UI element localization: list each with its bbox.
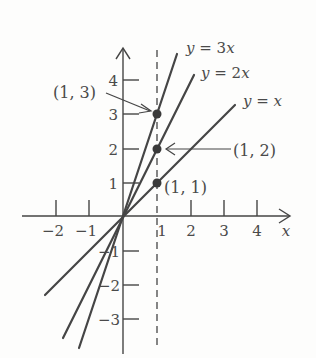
y-tick-label: −2 xyxy=(98,277,120,295)
label-point-1-1: (1, 1) xyxy=(164,178,207,197)
point-1-1 xyxy=(153,179,162,188)
label-y-2x: y = 2x xyxy=(200,64,250,82)
coordinate-plane: y = 3x y = 2x y = x (1, 3) (1, 2) (1, 1)… xyxy=(0,0,316,358)
x-tick-label: 2 xyxy=(186,222,196,240)
x-tick-label: −1 xyxy=(75,222,97,240)
label-point-1-2: (1, 2) xyxy=(233,141,276,160)
point-1-2 xyxy=(153,145,162,154)
graph-canvas: y = 3x y = 2x y = x (1, 3) (1, 2) (1, 1)… xyxy=(0,0,316,358)
y-tick-label: 3 xyxy=(108,106,118,124)
y-tick-label: −1 xyxy=(98,243,120,261)
point-1-3 xyxy=(153,110,162,119)
label-y-3x: y = 3x xyxy=(185,39,235,57)
y-tick-label: 4 xyxy=(108,72,118,90)
x-axis-label: x xyxy=(282,222,291,240)
y-tick-label: −3 xyxy=(98,311,120,329)
x-tick-label: 1 xyxy=(157,222,167,240)
x-tick-label: 4 xyxy=(252,222,262,240)
x-tick-label: −2 xyxy=(42,222,64,240)
label-point-1-3: (1, 3) xyxy=(53,83,96,102)
label-y-x: y = x xyxy=(242,92,283,110)
y-tick-label: 2 xyxy=(108,141,118,159)
x-tick-label: 3 xyxy=(219,222,229,240)
x-axis xyxy=(22,200,290,223)
y-tick-label: 1 xyxy=(108,175,118,193)
line-y-x xyxy=(45,105,235,295)
